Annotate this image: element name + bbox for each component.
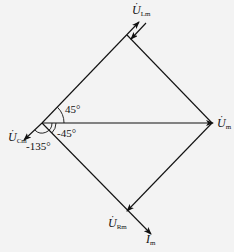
u-lm-vector <box>42 22 139 123</box>
u-rm-vector <box>42 123 151 234</box>
angle-arc-45 <box>58 107 64 123</box>
u-cm-translated-arrow <box>131 23 146 39</box>
phasor-diagram: ·ULm ·Um ·UCm ·URm ·Im 45° -45° -135° <box>0 0 234 252</box>
u-lm-translated-line <box>127 123 212 211</box>
angle-arc-minus45 <box>52 123 56 133</box>
label-u-lm: ·ULm <box>132 4 150 18</box>
label-u-rm: ·URm <box>108 217 127 231</box>
angle-label-minus135: -135° <box>26 141 51 152</box>
label-u-cm: ·UCm <box>8 131 27 145</box>
angle-label-45: 45° <box>65 104 80 115</box>
angle-label-minus45: -45° <box>57 128 76 139</box>
label-i-m: ·Im <box>146 233 155 247</box>
label-u-m: ·Um <box>217 117 231 131</box>
u-cm-translated-line <box>127 35 212 123</box>
phasor-lines <box>0 0 234 252</box>
